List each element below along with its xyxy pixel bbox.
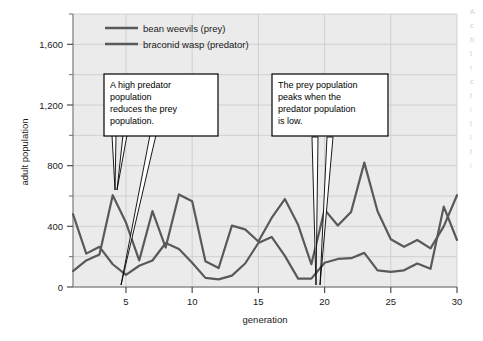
callout-left-line-3: reduces the prey [110,104,178,114]
y-tick-label-400: 400 [47,221,63,232]
population-cycle-line-chart: 04008001,2001,600 51015202530 adult popu… [0,0,483,341]
edge-text-fragment: A [470,8,475,15]
edge-text-fragment: l [470,134,472,141]
x-tick-label-5: 5 [123,296,128,307]
edge-text-fragment: i [470,106,472,113]
callout-right-line-2: peaks when the [278,92,341,102]
callout-left-line-4: population. [110,116,154,126]
y-tick-label-0: 0 [58,282,63,293]
callout-right-line-4: is low. [278,116,303,126]
callout-right: The prey population peaks when the preda… [272,74,388,136]
y-axis-title: adult population [19,118,30,185]
y-tick-label-800: 800 [47,160,63,171]
callout-right-line-3: predator population [278,104,356,114]
x-axis-ticks: 51015202530 [123,287,462,307]
edge-text-fragment: r [470,64,473,71]
edge-text-fragment: t [470,120,472,127]
edge-text-fragment: t [470,50,472,57]
figure-container: 04008001,2001,600 51015202530 adult popu… [0,0,483,341]
x-tick-label-15: 15 [253,296,264,307]
callout-left: A high predator population reduces the p… [104,74,218,136]
callout-left-line-1: A high predator [110,80,171,90]
x-axis-title: generation [243,314,288,325]
legend-label-prey: bean weevils (prey) [143,23,225,34]
edge-text-fragment: b [470,36,474,43]
edge-text-fragment: c [470,22,474,29]
edge-text-fragment: i [470,162,472,169]
y-axis-ticks: 04008001,2001,600 [39,14,73,293]
callout-right-line-1: The prey population [278,80,358,90]
x-tick-label-25: 25 [386,296,397,307]
x-tick-label-20: 20 [319,296,330,307]
edge-text-fragment: t [470,148,472,155]
plot-area-background [73,14,457,287]
edge-text-fragment: c [470,78,474,85]
y-tick-label-1600: 1,600 [39,39,63,50]
callout-left-line-2: population [110,92,152,102]
x-tick-label-10: 10 [187,296,198,307]
x-tick-label-30: 30 [452,296,463,307]
edge-text-fragment: t [470,92,472,99]
legend-label-predator: braconid wasp (predator) [143,39,249,50]
page-edge-text-fragments: Acbtrctitlti [470,8,475,169]
y-tick-label-1200: 1,200 [39,100,63,111]
